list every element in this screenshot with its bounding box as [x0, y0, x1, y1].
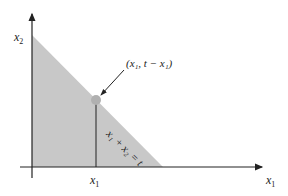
point-marker	[91, 95, 101, 105]
x-axis-label: x1	[266, 174, 275, 189]
pointer-arrow	[101, 70, 124, 95]
y-axis-label: x2	[14, 31, 23, 46]
diagram-canvas	[0, 0, 288, 196]
tick-label-x1: x1	[90, 174, 99, 189]
point-label: (x₁, t − x₁)	[126, 58, 172, 69]
